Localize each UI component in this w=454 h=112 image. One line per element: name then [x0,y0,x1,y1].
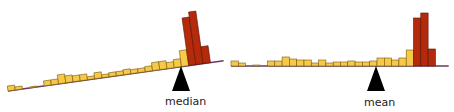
histogram-bar [72,75,80,82]
histogram-bar [7,85,15,91]
histogram-bar [377,58,384,66]
histogram-bar [57,74,65,84]
histogram-bar [384,58,391,66]
histogram-bar [282,57,289,66]
histogram-bar [297,60,304,66]
histogram-bar [289,59,296,66]
mean-label: mean [364,96,395,109]
mean-balance-panel [231,13,449,91]
histogram-bar [151,62,159,71]
histogram-bar [341,62,348,66]
histogram-bar [94,72,102,79]
histogram-bar [231,61,238,66]
histogram-bar [65,75,73,83]
histogram-bar [362,62,369,66]
median-label: median [165,95,206,108]
fulcrum-triangle-icon [172,66,190,91]
histogram-bar [428,49,435,66]
histogram-bar [138,68,146,73]
histogram-bar [253,65,260,66]
histogram-bar [333,62,340,66]
histogram-bar [311,63,318,66]
histogram-bar [123,69,131,75]
histogram-bar [399,58,406,66]
histogram-bar [238,63,245,66]
histogram-bar [370,61,377,66]
histogram-bar [421,13,428,66]
histogram-bar [304,60,311,66]
histogram-bar [43,80,51,86]
histogram-bar [275,61,282,66]
histogram-bar [173,59,181,68]
histogram-bar [116,71,124,76]
histogram-bar [15,86,23,90]
histogram-bar [79,74,87,81]
histogram-bar [87,76,95,80]
histogram-bar [406,50,413,66]
fulcrum-triangle-icon [367,66,385,91]
histogram-bar [319,60,326,66]
histogram-bar [145,66,153,72]
histogram-bar [109,72,117,77]
histogram-bar [326,63,333,66]
histogram-bar [102,74,110,78]
histogram-bar [268,61,275,66]
histogram-bar [355,62,362,66]
histogram-bar [159,61,167,70]
histogram-bar [166,62,174,69]
histogram-bar [130,69,138,74]
median-balance-panel [1,8,224,91]
histogram-bar [51,79,59,85]
histogram-bar [414,18,421,66]
histogram-bar [348,61,355,66]
histogram-bar [392,60,399,66]
